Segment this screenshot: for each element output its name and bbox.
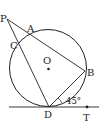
label-c: C bbox=[10, 40, 18, 51]
label-b: B bbox=[87, 67, 94, 78]
label-angle-45: 45° bbox=[66, 96, 81, 106]
point-t bbox=[86, 106, 89, 109]
label-a: A bbox=[26, 23, 35, 34]
center-point-o bbox=[47, 68, 50, 71]
label-p: P bbox=[0, 13, 7, 24]
geometry-diagram: P A C O B D T 45° bbox=[0, 0, 106, 125]
label-t: T bbox=[83, 112, 90, 123]
label-o: O bbox=[43, 55, 51, 66]
angle-arc-bdt bbox=[58, 98, 62, 103]
label-d: D bbox=[44, 109, 52, 120]
